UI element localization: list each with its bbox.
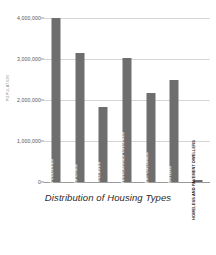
bar-slot: JJ CLUSTERS xyxy=(163,18,187,182)
bar-slot: PLANNED COLONIES xyxy=(44,18,68,182)
bar-series: PLANNED COLONIESWALLED CITIESURBAN VILLA… xyxy=(44,18,210,182)
bar xyxy=(51,18,60,182)
y-tick-label: 0 xyxy=(38,179,41,185)
bar-category-label: JJ CLUSTERS xyxy=(165,166,174,194)
y-tick-label: 4,000,000 xyxy=(17,15,41,21)
gridline xyxy=(44,182,210,183)
bar-slot: RESETTLEMENT COLONIES xyxy=(139,18,163,182)
bar-category-label: HOMELESS AND PAVEMENT DWELLERS xyxy=(189,140,198,220)
plot-area: 01,000,0002,000,0003,000,0004,000,000 PL… xyxy=(44,18,210,182)
bar-slot: UNAUTHORISED AND REGULARISED COLONIES xyxy=(115,18,139,182)
bar xyxy=(75,53,84,182)
y-tick-label: 3,000,000 xyxy=(17,56,41,62)
bar-slot: HOMELESS AND PAVEMENT DWELLERS xyxy=(186,18,210,182)
chart-title: Distribution of Housing Types xyxy=(0,192,216,203)
bar-slot: WALLED CITIES xyxy=(68,18,92,182)
y-tick-label: 1,000,000 xyxy=(17,138,41,144)
y-tick-label: 2,000,000 xyxy=(17,97,41,103)
y-axis-title: POPULATION xyxy=(6,58,10,118)
bar-slot: URBAN VILLAGES xyxy=(91,18,115,182)
bar-category-label: UNAUTHORISED AND REGULARISED COLONIES xyxy=(118,132,127,228)
housing-types-bar-chart: POPULATION 01,000,0002,000,0003,000,0004… xyxy=(0,0,216,255)
